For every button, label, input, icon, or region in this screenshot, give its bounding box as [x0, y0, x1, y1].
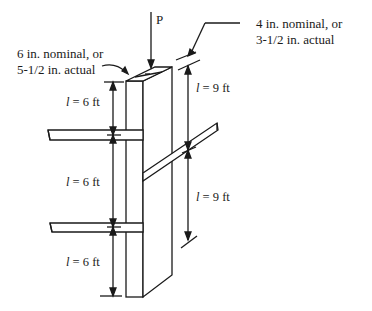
right-dimension-label-2: l = 9 ft: [196, 190, 230, 205]
length-value: = 6 ft: [69, 95, 99, 109]
length-value: = 6 ft: [69, 255, 99, 269]
wide-face-callout-line2: 5-1/2 in. actual: [17, 62, 95, 77]
column-bracing-diagram: P 6 in. nominal, or 5-1/2 in. actual 4 i…: [0, 0, 372, 311]
brace-lower-left: [50, 223, 143, 232]
load-label-p: P: [156, 12, 163, 27]
wide-face-callout-line1: 6 in. nominal, or: [17, 46, 103, 61]
right-dimension-label-1: l = 9 ft: [196, 81, 230, 96]
left-dimension-label-1: l = 6 ft: [66, 95, 100, 110]
left-dimension-label-2: l = 6 ft: [66, 175, 100, 190]
load-arrow: [148, 12, 154, 68]
left-dimension-label-3: l = 6 ft: [66, 255, 100, 270]
narrow-face-callout-line1: 4 in. nominal, or: [256, 16, 342, 31]
narrow-face-callout-line2: 3-1/2 in. actual: [256, 32, 334, 47]
brace-upper-left: [48, 130, 143, 140]
length-value: = 9 ft: [199, 81, 229, 95]
length-value: = 9 ft: [199, 190, 229, 204]
length-value: = 6 ft: [69, 175, 99, 189]
column: [126, 67, 172, 297]
left-dimension-line: [100, 82, 124, 296]
